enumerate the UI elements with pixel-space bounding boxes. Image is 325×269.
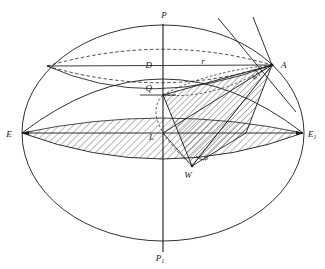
parallel-circle-back-dashed <box>47 49 272 66</box>
label-A: A <box>280 60 287 70</box>
figure-root: P P1 E E1 A D Q L W r φ φ <box>0 0 325 269</box>
label-r: r <box>201 56 205 66</box>
zenith-ray-at-A <box>253 17 272 65</box>
label-P: P <box>160 10 167 20</box>
label-P1: P1 <box>155 253 165 264</box>
label-E1: E1 <box>307 129 317 140</box>
label-angle-omega: φ <box>204 154 208 162</box>
chord-D-level <box>47 65 272 66</box>
label-Q: Q <box>146 83 153 93</box>
label-L: L <box>148 132 154 142</box>
label-E: E <box>5 129 12 139</box>
label-angle-at-A: φ <box>253 73 257 81</box>
geometry-diagram: P P1 E E1 A D Q L W r φ φ <box>0 0 325 269</box>
point-W <box>191 165 194 168</box>
label-W: W <box>184 170 193 180</box>
label-D: D <box>145 60 153 70</box>
point-A <box>270 63 273 66</box>
